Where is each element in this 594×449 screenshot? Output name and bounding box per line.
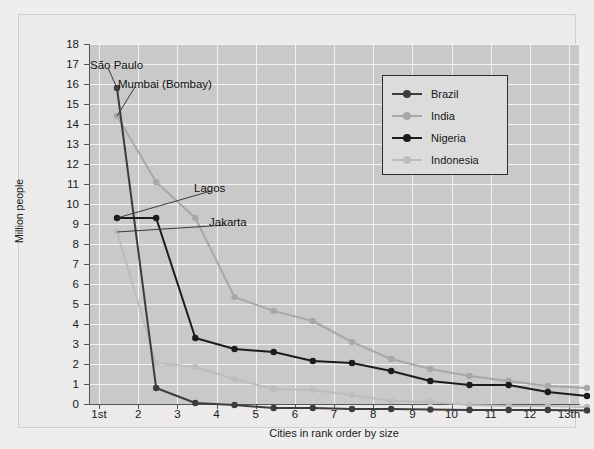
legend-swatch-india: [392, 110, 422, 122]
chart-root: 0123456789101112131415161718 1st23456789…: [0, 0, 594, 449]
data-point: [584, 407, 590, 413]
chart-legend: Brazil India Nigeria Indonesia: [382, 75, 508, 175]
chart-panel: 0123456789101112131415161718 1st23456789…: [18, 14, 576, 428]
data-point: [310, 318, 316, 324]
data-point: [584, 393, 590, 399]
legend-swatch-indonesia: [392, 154, 422, 166]
data-point: [270, 405, 276, 411]
data-point: [427, 399, 433, 405]
data-point: [349, 406, 355, 412]
data-point: [270, 386, 276, 392]
data-point: [270, 308, 276, 314]
data-point: [545, 383, 551, 389]
data-point: [231, 376, 237, 382]
data-point: [153, 179, 159, 185]
data-point: [349, 392, 355, 398]
data-point: [349, 360, 355, 366]
data-point: [545, 407, 551, 413]
data-point: [270, 349, 276, 355]
data-point: [388, 368, 394, 374]
data-point: [153, 215, 159, 221]
legend-label-india: India: [431, 110, 455, 122]
data-point: [388, 356, 394, 362]
data-point: [584, 385, 590, 391]
data-point: [192, 335, 198, 341]
data-point: [192, 364, 198, 370]
series-line-indonesia: [117, 232, 587, 407]
annotation-leader-line: [108, 68, 117, 88]
annotation-sao-paulo: São Paulo: [90, 59, 143, 71]
data-point: [153, 385, 159, 391]
series-line-india: [117, 116, 587, 388]
legend-swatch-brazil: [392, 88, 422, 100]
series-line-nigeria: [117, 218, 587, 396]
data-point: [388, 406, 394, 412]
data-point: [192, 215, 198, 221]
legend-item-india[interactable]: India: [383, 105, 507, 127]
data-point: [427, 406, 433, 412]
legend-label-brazil: Brazil: [431, 88, 459, 100]
annotation-jakarta: Jakarta: [209, 216, 247, 228]
data-point: [310, 387, 316, 393]
legend-item-indonesia[interactable]: Indonesia: [383, 149, 507, 171]
legend-item-brazil[interactable]: Brazil: [383, 83, 507, 105]
legend-swatch-nigeria: [392, 132, 422, 144]
legend-item-nigeria[interactable]: Nigeria: [383, 127, 507, 149]
legend-label-indonesia: Indonesia: [431, 154, 479, 166]
data-point: [192, 400, 198, 406]
data-point: [388, 398, 394, 404]
data-point: [427, 378, 433, 384]
data-point: [231, 402, 237, 408]
legend-label-nigeria: Nigeria: [431, 132, 466, 144]
data-point: [545, 389, 551, 395]
annotation-lagos: Lagos: [194, 182, 225, 194]
data-point: [231, 346, 237, 352]
data-point: [505, 407, 511, 413]
data-point: [231, 294, 237, 300]
data-point: [466, 407, 472, 413]
data-point: [466, 373, 472, 379]
data-point: [310, 358, 316, 364]
data-point: [505, 382, 511, 388]
data-point: [310, 405, 316, 411]
data-point: [427, 366, 433, 372]
data-point: [349, 339, 355, 345]
annotation-mumbai: Mumbai (Bombay): [118, 78, 212, 90]
data-point: [466, 382, 472, 388]
